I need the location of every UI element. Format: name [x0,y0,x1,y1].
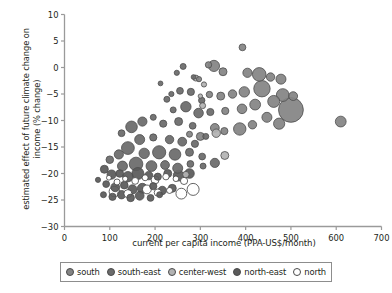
svg-text:5: 5 [53,36,58,46]
bubble-south-east [191,140,198,147]
bubble-north-east [116,170,124,178]
chart-legend: southsouth-eastcenter-westnorth-eastnort… [60,262,332,282]
bubble-north [180,177,187,184]
bubble-north [163,173,169,179]
bubble-north-east [150,183,157,190]
svg-text:−10: −10 [41,116,59,126]
bubble-north [132,178,139,185]
bubble-center-west [212,129,220,137]
svg-text:−25: −25 [41,195,59,205]
bubble-south-east [165,135,173,143]
bubble-south-east [146,161,157,172]
bubble-south [217,92,225,100]
plot-area: 1050−5−10−15−20−25−300100200300400500600… [0,0,392,293]
bubble-south-east [181,102,191,112]
bubble-south [186,131,192,137]
bubble-south [221,128,228,135]
bubble-north-east [109,193,116,200]
bubble-south-east [169,91,174,96]
bubble-center-west [221,151,229,159]
bubble-south-east [174,70,179,75]
bubble-center-west [200,103,206,109]
bubble-south-east [173,163,183,173]
bubble-north [123,176,128,181]
bubble-north [142,175,148,181]
bubble-south-east [187,88,194,95]
bubble-south [243,68,252,77]
legend-swatch-icon [168,268,176,276]
bubble-south-east [180,63,186,69]
svg-text:−5: −5 [46,89,58,99]
bubble-south-east [135,135,145,145]
bubble-south-east [177,87,184,94]
bubble-south-east [150,134,157,141]
bubble-south [266,73,274,81]
bubble-south [219,68,227,76]
bubble-south [248,121,256,129]
bubble-north [106,175,111,180]
bubble-north [114,179,120,185]
bubble-north-east [100,165,108,173]
bubble-south [239,87,249,97]
bubble-north [173,176,179,182]
legend-item-north[interactable]: north [293,267,326,277]
bubble-south-east [126,121,138,133]
legend-label: north [304,267,326,277]
svg-text:−30: −30 [41,222,59,232]
legend-item-south-east[interactable]: south-east [107,267,161,277]
bubble-south-east [199,153,206,160]
bubble-north-east [154,173,161,180]
legend-item-south[interactable]: south [66,267,100,277]
bubble-south-east [153,146,166,159]
bubble-south-east [194,108,204,118]
bubble-south [276,74,286,84]
legend-swatch-icon [293,268,301,276]
bubble-south-east [175,118,183,126]
legend-item-center-west[interactable]: center-west [168,267,226,277]
bubble-north-east [103,181,110,188]
bubble-north-east [147,194,154,201]
bubble-north [176,188,187,199]
bubble-chart-figure: estimated effect of future climate chang… [0,0,392,293]
bubble-south-east [161,161,170,170]
bubble-series [95,44,346,202]
bubble-south-east [203,133,209,139]
bubble-north [187,183,199,195]
bubble-south-east [191,75,196,80]
bubble-south [222,107,229,114]
bubble-south-east [158,81,163,86]
bubble-south-east [178,137,187,146]
bubble-north-east [120,181,128,189]
bubble-south-east [160,120,167,127]
legend-swatch-icon [66,268,74,276]
bubble-center-west [201,82,206,87]
bubble-south-east [138,117,147,126]
bubble-south-east [210,158,219,167]
bubble-south [196,77,201,82]
bubble-south-east [164,96,170,102]
legend-label: center-west [179,267,226,277]
bubble-south-east [170,107,176,113]
x-axis-title: current per capita income (PPA-US$/month… [64,238,384,248]
bubble-south-east [118,130,125,137]
bubble-south-east [185,148,193,156]
bubble-south [289,92,298,101]
bubble-south-east [150,114,156,120]
bubble-south [274,118,285,129]
bubble-north-east [100,192,106,198]
bubble-south-east [207,108,214,115]
bubble-south [268,95,280,107]
svg-text:0: 0 [53,63,58,73]
legend-label: south [77,267,100,277]
bubble-south [252,68,266,82]
legend-label: south-east [118,267,161,277]
legend-label: north-east [244,267,286,277]
bubble-south [254,81,270,97]
bubble-south-east [187,161,194,168]
legend-swatch-icon [233,268,241,276]
bubble-south [206,91,212,97]
bubble-south [234,123,246,135]
bubble-south [205,62,211,68]
bubble-south [250,99,261,110]
legend-item-north-east[interactable]: north-east [233,267,286,277]
